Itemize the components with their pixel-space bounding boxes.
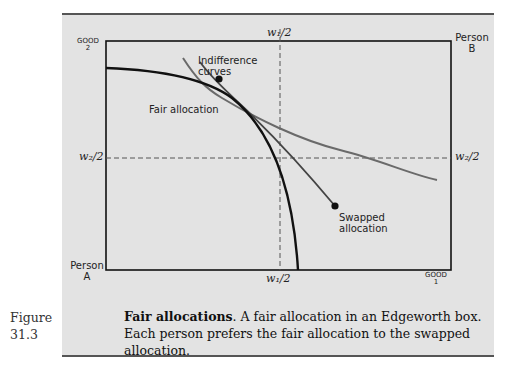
- swapped-line1: Swapped: [339, 213, 388, 224]
- figure-number-value: 31.3: [10, 326, 52, 343]
- person-a-line1: Person: [70, 261, 104, 272]
- indifference-curve-b: [200, 62, 335, 206]
- fair-allocation-label: Fair allocation: [149, 105, 219, 116]
- indifference-curves-label: Indifference curves: [198, 56, 258, 77]
- person-b-line2: B: [452, 44, 492, 55]
- w1-top-label: w₁/2: [267, 27, 292, 39]
- person-a-label: Person A: [70, 261, 104, 282]
- good1-label: GOOD 1: [420, 272, 452, 287]
- good1-label-line2: 1: [420, 279, 452, 286]
- figure-caption: Fair allocations. A fair allocation in a…: [124, 308, 484, 359]
- caption-title: Fair allocations: [124, 309, 233, 324]
- w2-left-label: w₂/2: [79, 151, 104, 163]
- w1-bottom-label: w₁/2: [266, 273, 291, 285]
- figure-number: Figure 31.3: [10, 309, 52, 343]
- good2-label: GOOD 2: [74, 38, 102, 53]
- swapped-allocation-point: [331, 202, 338, 209]
- contract-frontier-curve: [106, 68, 298, 270]
- good2-label-line2: 2: [74, 45, 102, 52]
- figure-number-label: Figure: [10, 309, 52, 326]
- swapped-line2: allocation: [339, 224, 388, 235]
- person-a-line2: A: [70, 272, 104, 283]
- indifference-line2: curves: [198, 67, 258, 78]
- person-b-line1: Person: [452, 33, 492, 44]
- indifference-line1: Indifference: [198, 56, 258, 67]
- edgeworth-box-frame: [106, 41, 451, 270]
- swapped-allocation-label: Swapped allocation: [339, 213, 388, 234]
- person-b-label: Person B: [452, 33, 492, 54]
- w2-right-label: w₂/2: [455, 151, 480, 163]
